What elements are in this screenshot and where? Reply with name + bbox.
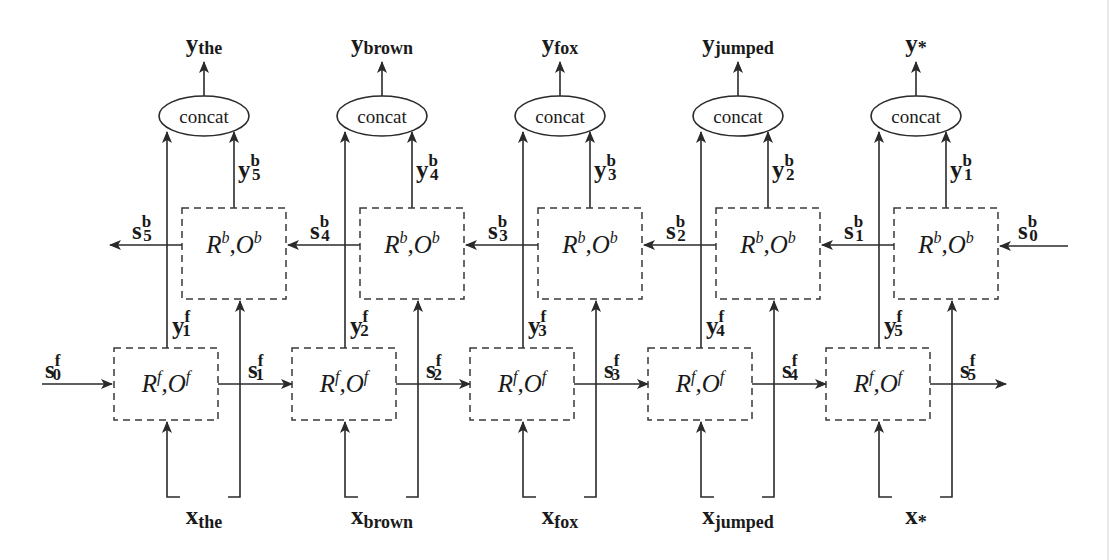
input-label-sub: fox <box>554 512 578 532</box>
forward-cell-label: Rf,Of <box>853 368 905 397</box>
output-label: ybrown <box>351 30 413 58</box>
backward-cell-label-o: O <box>592 231 610 258</box>
backward-cell-label-r-sup: b <box>755 229 763 246</box>
output-label-sub: brown <box>363 38 413 58</box>
input-label-base: x <box>905 502 918 529</box>
input-label: xfox <box>542 502 579 532</box>
input-label: xbrown <box>351 502 413 532</box>
forward-output-label: yf2 <box>350 307 369 340</box>
forward-output-label-sub: 5 <box>894 321 903 340</box>
forward-cell-label-o-sup: f <box>898 368 905 386</box>
output-label-base: y <box>186 30 199 57</box>
forward-cell-label-r: R <box>319 370 335 397</box>
backward-state-label-sub: 2 <box>677 226 686 245</box>
initial-backward-state-label-base: s <box>1018 217 1028 244</box>
output-label-base: y <box>702 30 715 57</box>
forward-cell-label-o-sup: f <box>186 368 193 386</box>
backward-cell-label: Rb,Ob <box>561 229 618 258</box>
forward-output-label-sub: 2 <box>360 321 369 340</box>
forward-cell-label: Rf,Of <box>497 368 549 397</box>
input-label-base: x <box>351 502 364 529</box>
backward-cell-label-r: R <box>561 231 577 258</box>
forward-output-label-sub: 4 <box>716 321 725 340</box>
backward-state-label: sb3 <box>488 212 508 245</box>
concat-label: concat <box>357 106 407 127</box>
column-2: ybrownconcatyf2yb4Rb,ObRf,Ofsb4sf2xbrown <box>288 30 470 532</box>
backward-output-label: yb2 <box>772 151 794 184</box>
backward-cell-label-r-sup: b <box>221 229 229 246</box>
forward-cell-label-o: O <box>524 370 542 397</box>
input-to-forward-arrow <box>523 422 536 497</box>
backward-cell-label: Rb,Ob <box>205 229 262 258</box>
initial-backward-state-label: sb0 <box>1018 212 1038 245</box>
backward-cell-label-o: O <box>414 231 432 258</box>
backward-cell-label-o-sup: b <box>788 229 796 246</box>
initial-forward-state-label-sub: 0 <box>52 365 61 384</box>
forward-state-label-sub: 3 <box>611 365 620 384</box>
forward-cell-label-o: O <box>168 370 186 397</box>
input-to-forward-arrow <box>879 422 892 497</box>
backward-cell-label-o: O <box>770 231 788 258</box>
backward-cell-label-r: R <box>383 231 399 258</box>
backward-output-label: yb1 <box>950 151 972 184</box>
backward-state-label: sb5 <box>132 212 152 245</box>
backward-cell-label-o-sup: b <box>254 229 262 246</box>
forward-state-label: sf5 <box>960 351 976 384</box>
forward-output-label-sub: 3 <box>538 321 547 340</box>
input-label-sub: brown <box>363 512 413 532</box>
forward-cell-label: Rf,Of <box>141 368 193 397</box>
forward-cell-label-o: O <box>702 370 720 397</box>
backward-state-label-sub: 3 <box>499 226 508 245</box>
backward-cell-label-r-sup: b <box>933 229 941 246</box>
input-label-base: x <box>702 502 715 529</box>
backward-state-label-sub: 4 <box>321 226 330 245</box>
input-to-forward-arrow <box>167 422 180 497</box>
input-to-forward-arrow <box>345 422 358 497</box>
forward-state-label-sub: 1 <box>255 365 264 384</box>
forward-cell-label-r: R <box>675 370 691 397</box>
backward-output-label-base: y <box>238 156 251 183</box>
output-label-sub: fox <box>554 38 578 58</box>
concat-label: concat <box>713 106 763 127</box>
backward-state-label-sub: 5 <box>143 226 152 245</box>
initial-backward-state-label-sub: 0 <box>1029 226 1038 245</box>
forward-state-label-sub: 5 <box>967 365 976 384</box>
backward-cell-label-r: R <box>205 231 221 258</box>
output-label-base: y <box>542 30 555 57</box>
backward-output-label: yb5 <box>238 151 260 184</box>
input-to-backward-arrow <box>406 301 418 497</box>
output-label-sub: jumped <box>714 38 774 58</box>
forward-state-label-sub: 4 <box>789 365 798 384</box>
input-label-base: x <box>542 502 555 529</box>
input-label-sub: the <box>198 512 222 532</box>
backward-cell-label-o: O <box>236 231 254 258</box>
input-label: xthe <box>186 502 223 532</box>
output-label: yfox <box>542 30 579 58</box>
backward-output-label-base: y <box>416 156 429 183</box>
backward-cell-label: Rb,Ob <box>739 229 796 258</box>
backward-cell-label: Rb,Ob <box>917 229 974 258</box>
concat-label: concat <box>179 106 229 127</box>
forward-cell-label-o: O <box>880 370 898 397</box>
input-to-backward-arrow <box>762 301 774 497</box>
forward-cell-label-o-sup: f <box>542 368 549 386</box>
backward-output-label: yb3 <box>594 151 616 184</box>
backward-cell-label-o: O <box>948 231 966 258</box>
backward-output-label-base: y <box>594 156 607 183</box>
input-label-sub: * <box>918 512 927 532</box>
backward-output-label-sub: 1 <box>964 165 973 184</box>
forward-output-label: yf4 <box>706 307 725 340</box>
output-label-base: y <box>351 30 364 57</box>
forward-state-label: sf4 <box>782 351 798 384</box>
backward-cell-label-r: R <box>739 231 755 258</box>
forward-state-label-sub: 2 <box>433 365 442 384</box>
forward-cell-label: Rf,Of <box>675 368 727 397</box>
column-3: yfoxconcatyf3yb3Rb,ObRf,Ofsb3sf3xfox <box>466 30 648 532</box>
backward-cell-label-o-sup: b <box>610 229 618 246</box>
backward-state-label-base: s <box>844 217 854 244</box>
input-label: x* <box>905 502 927 532</box>
forward-state-label: sf3 <box>604 351 620 384</box>
backward-state-label-base: s <box>132 217 142 244</box>
backward-state-label-base: s <box>488 217 498 244</box>
forward-cell-label-o: O <box>346 370 364 397</box>
